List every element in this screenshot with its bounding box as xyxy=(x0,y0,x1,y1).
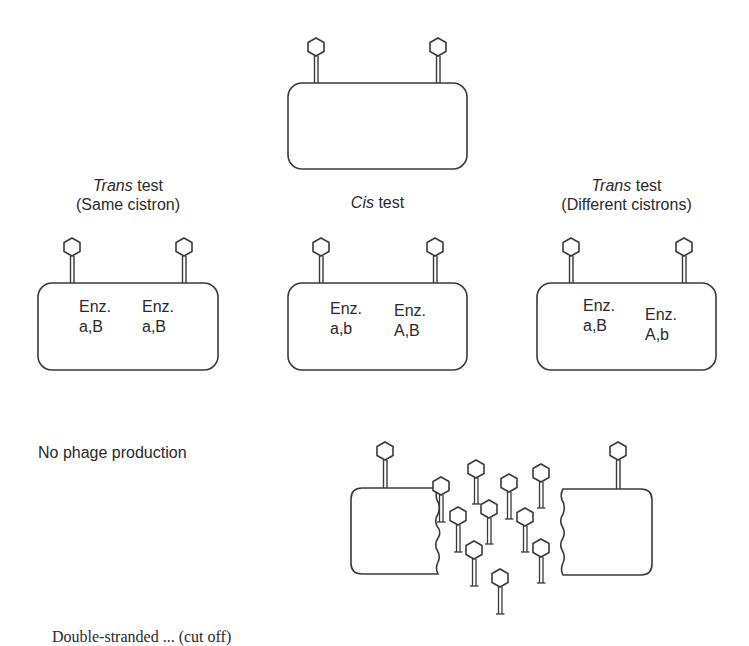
lysed-cell-left-half xyxy=(351,442,440,574)
released-phages xyxy=(433,460,549,614)
panel-subtitle: (Same cistron) xyxy=(76,196,180,213)
phage-icon xyxy=(533,464,549,508)
panel-subtitle: (Different cistrons) xyxy=(561,196,691,213)
panel-title-trans-different: Trans test (Different cistrons) xyxy=(537,176,716,214)
phage-icon xyxy=(492,569,508,614)
enzyme-label: Enz.a,b xyxy=(330,299,362,339)
enzyme-label: Enz.a,B xyxy=(583,296,615,336)
phage-icon xyxy=(64,238,80,283)
phage-icon xyxy=(517,508,533,552)
phage-icon xyxy=(468,460,484,504)
enzyme-label: Enz.a,B xyxy=(142,297,174,337)
phage-icon xyxy=(308,38,324,83)
cell-trans-same xyxy=(38,238,218,370)
phage-icon xyxy=(563,238,579,283)
enzyme-label: Enz.a,B xyxy=(79,297,111,337)
phage-icon xyxy=(313,238,329,283)
phage-icon xyxy=(610,442,626,489)
panel-title-trans-same: Trans test (Same cistron) xyxy=(38,176,218,214)
lysed-cell-right-half xyxy=(561,442,652,575)
phage-icon xyxy=(466,541,482,586)
panel-title-cis: Cis test xyxy=(288,193,467,212)
outcome-no-phage-label: No phage production xyxy=(38,443,187,462)
phage-icon xyxy=(430,38,446,83)
phage-icon xyxy=(377,442,393,488)
phage-icon xyxy=(427,238,443,283)
phage-icon xyxy=(481,500,497,544)
enzyme-label: Enz.A,b xyxy=(645,305,677,345)
enzyme-label: Enz.A,B xyxy=(394,301,426,341)
phage-icon xyxy=(533,539,549,583)
phage-icon xyxy=(450,507,466,552)
cell-trans-different xyxy=(537,238,716,370)
top-cell xyxy=(288,38,467,169)
phage-icon xyxy=(501,474,517,519)
phage-icon xyxy=(676,238,692,283)
phage-icon xyxy=(176,238,192,283)
cell-cis xyxy=(288,238,467,370)
cropped-caption: Double-stranded ... (cut off) xyxy=(52,628,231,646)
